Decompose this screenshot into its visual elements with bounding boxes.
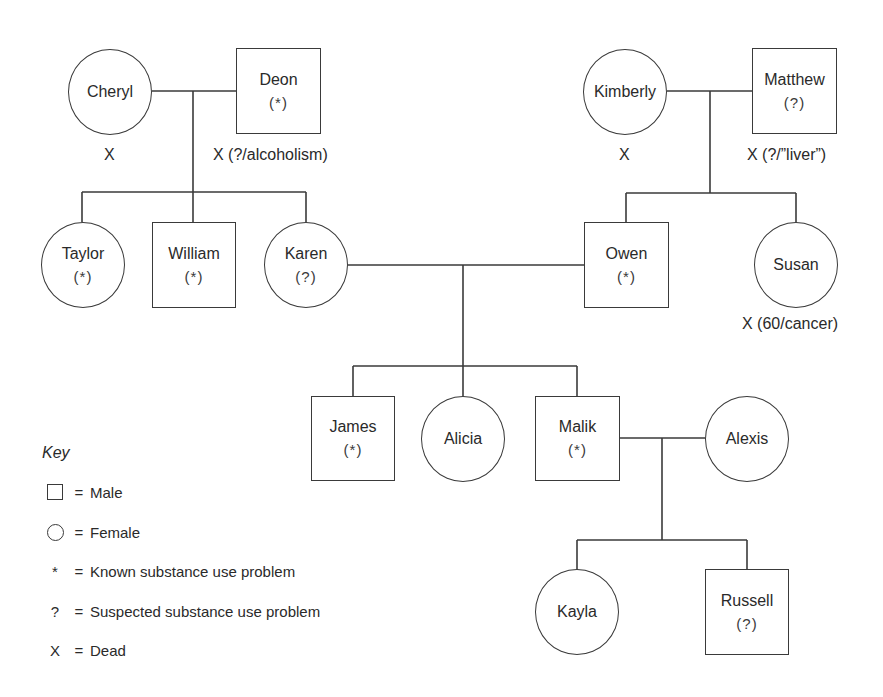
person-william: William (*)	[152, 222, 236, 308]
person-name: James	[329, 417, 376, 437]
key-label: Male	[90, 484, 123, 501]
person-russell: Russell (?)	[705, 569, 789, 655]
person-name: Karen	[285, 244, 328, 264]
person-karen: Karen (?)	[264, 222, 348, 308]
person-status: (?)	[784, 93, 805, 113]
key-equals: =	[68, 524, 90, 541]
person-cheryl: Cheryl	[68, 49, 152, 135]
person-name: Taylor	[62, 244, 105, 264]
person-matthew: Matthew (?)	[752, 48, 837, 134]
death-marker-kimberly: X	[619, 145, 630, 165]
person-susan: Susan	[754, 222, 838, 308]
key-item-suspected: ? = Suspected substance use problem	[42, 600, 320, 622]
person-name: Owen	[606, 244, 648, 264]
question-icon: ?	[42, 603, 68, 620]
key-label: Known substance use problem	[90, 563, 295, 580]
person-name: Alicia	[444, 429, 482, 449]
key-equals: =	[68, 484, 90, 501]
person-malik: Malik (*)	[535, 396, 620, 481]
person-owen: Owen (*)	[584, 222, 669, 308]
person-kimberly: Kimberly	[583, 49, 667, 135]
death-note-matthew: X (?/”liver”)	[747, 145, 826, 165]
asterisk-icon: *	[42, 563, 68, 580]
person-status: (?)	[295, 267, 316, 287]
key-item-female: = Female	[42, 521, 140, 543]
key-item-known: * = Known substance use problem	[42, 560, 295, 582]
death-note-susan: X (60/cancer)	[742, 314, 838, 334]
person-alicia: Alicia	[421, 396, 505, 482]
person-name: Kayla	[557, 602, 597, 622]
key-equals: =	[68, 603, 90, 620]
person-status: (*)	[185, 267, 204, 287]
circle-icon	[42, 524, 68, 541]
person-kayla: Kayla	[535, 569, 619, 655]
person-status: (?)	[736, 614, 757, 634]
person-name: Alexis	[726, 429, 769, 449]
person-alexis: Alexis	[705, 396, 789, 482]
person-name: Cheryl	[87, 82, 133, 102]
person-deon: Deon (*)	[236, 48, 321, 134]
key-title: Key	[42, 444, 70, 462]
person-name: William	[168, 244, 220, 264]
person-name: Malik	[559, 417, 596, 437]
key-item-dead: X = Dead	[42, 639, 126, 661]
key-item-male: = Male	[42, 481, 123, 503]
person-james: James (*)	[311, 396, 395, 481]
key-label: Dead	[90, 642, 126, 659]
person-taylor: Taylor (*)	[41, 222, 125, 308]
x-icon: X	[42, 642, 68, 659]
person-status: (*)	[617, 267, 636, 287]
person-status: (*)	[344, 440, 363, 460]
square-icon	[42, 484, 68, 500]
key-label: Suspected substance use problem	[90, 603, 320, 620]
person-name: Deon	[259, 70, 297, 90]
person-name: Kimberly	[594, 82, 656, 102]
key-label: Female	[90, 524, 140, 541]
person-status: (*)	[568, 440, 587, 460]
person-name: Russell	[721, 591, 773, 611]
key-equals: =	[68, 642, 90, 659]
person-status: (*)	[269, 93, 288, 113]
key-equals: =	[68, 563, 90, 580]
person-status: (*)	[74, 267, 93, 287]
death-note-deon: X (?/alcoholism)	[213, 145, 328, 165]
death-marker-cheryl: X	[104, 145, 115, 165]
person-name: Susan	[773, 255, 818, 275]
person-name: Matthew	[764, 70, 824, 90]
